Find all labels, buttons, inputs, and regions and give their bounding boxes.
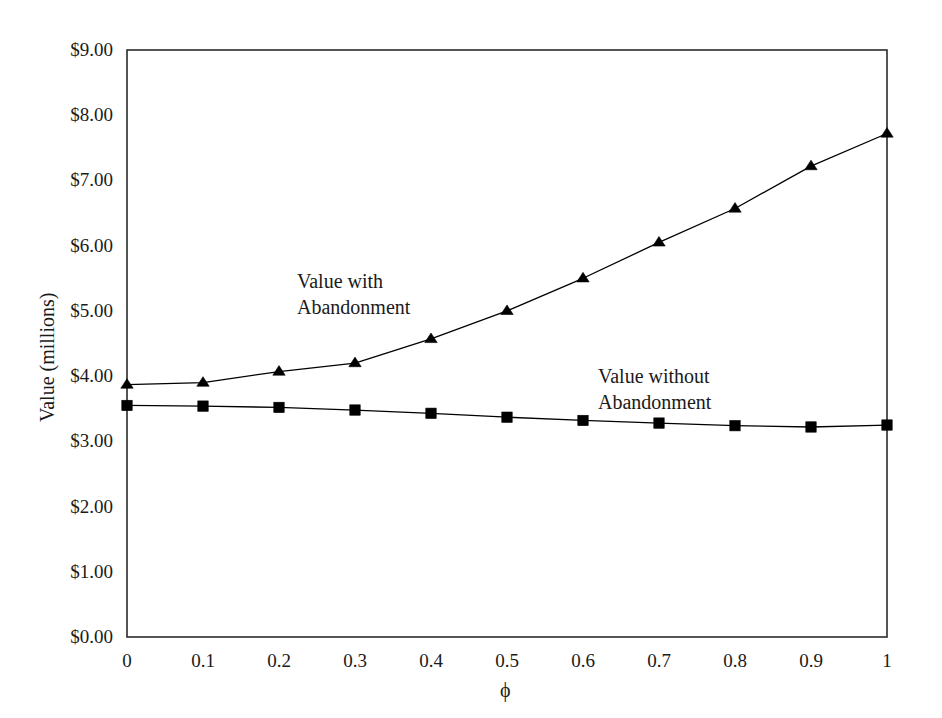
y-tick-label: $7.00 [70,169,113,191]
data-point-square [198,401,208,411]
data-point-square [654,418,664,428]
data-point-square [502,412,512,422]
data-point-square [578,415,588,425]
y-tick-label: $6.00 [70,235,113,257]
annotation-line-1: Value without [598,363,711,389]
x-tick-label: 0.9 [799,650,823,672]
x-axis-title: ϕ [500,679,511,702]
chart-background [0,0,942,718]
y-tick-label: $3.00 [70,430,113,452]
data-point-square [730,420,740,430]
x-tick-label: 0.2 [267,650,291,672]
y-tick-label: $9.00 [70,39,113,61]
annotation-line-2: Abandonment [297,294,410,320]
x-tick-label: 0.6 [571,650,595,672]
y-tick-label: $8.00 [70,104,113,126]
chart-figure: $0.00$1.00$2.00$3.00$4.00$5.00$6.00$7.00… [0,0,942,718]
x-tick-label: 0.5 [495,650,519,672]
chart-canvas [0,0,942,718]
series-annotation-without-abandonment: Value without Abandonment [598,363,711,416]
annotation-line-1: Value with [297,268,410,294]
annotation-line-2: Abandonment [598,389,711,415]
y-tick-label: $4.00 [70,365,113,387]
x-tick-label: 0.8 [723,650,747,672]
x-tick-label: 0.1 [191,650,215,672]
data-point-square [882,420,892,430]
y-tick-label: $1.00 [70,561,113,583]
y-tick-label: $2.00 [70,496,113,518]
y-tick-label: $0.00 [70,626,113,648]
x-tick-label: 1 [882,650,892,672]
data-point-square [122,400,132,410]
x-tick-label: 0.3 [343,650,367,672]
data-point-square [806,422,816,432]
x-tick-label: 0.4 [419,650,443,672]
y-tick-label: $5.00 [70,300,113,322]
y-axis-title: Value (millions) [36,292,59,421]
x-tick-label: 0.7 [647,650,671,672]
data-point-square [426,408,436,418]
data-point-square [350,405,360,415]
x-tick-label: 0 [122,650,132,672]
data-point-square [274,402,284,412]
series-annotation-with-abandonment: Value with Abandonment [297,268,410,321]
